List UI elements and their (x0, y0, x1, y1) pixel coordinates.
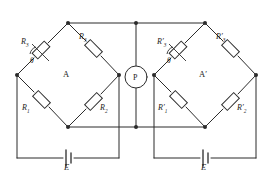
node-ap-apex (203, 21, 207, 25)
node-ap-left (152, 73, 156, 77)
node-a-right (117, 73, 121, 77)
wire-ap-botright-upper (238, 75, 256, 94)
label-angle-theta-ap: θ (167, 56, 171, 65)
label-resistor-ap-top-right: R′3 (216, 33, 225, 43)
resistor-a-top-right (85, 40, 103, 58)
node-ap-right (254, 73, 258, 77)
wire-a-botleft-upper (17, 75, 34, 92)
circuit-svg (0, 0, 270, 180)
label-emf-right: E (201, 163, 206, 172)
label-resistor-a-top-left: R3 (21, 38, 28, 48)
label-resistor-ap-bottom-left: R′1 (158, 104, 167, 114)
wire-a-topleft-upper (48, 23, 68, 43)
resistor-a-bottom-left (33, 91, 51, 109)
label-bridge-ap: A′ (199, 70, 207, 79)
label-emf-left: E (64, 163, 69, 172)
resistor-ap-bottom-left (170, 91, 188, 109)
node-a-bottom (66, 125, 70, 129)
node-a-apex (66, 21, 70, 25)
wire-ap-botleft-lower (186, 107, 205, 127)
wire-ap-botright-lower (205, 109, 223, 127)
wire-a-topright-lower (101, 56, 119, 75)
label-resistor-a-bottom-right: R2 (100, 104, 107, 114)
wire-ap-topleft-upper (185, 23, 205, 43)
resistor-a-top-left (32, 41, 50, 59)
node-meter-top (134, 21, 138, 25)
wire-group (17, 23, 256, 166)
node-meter-bottom (134, 125, 138, 129)
wire-a-botleft-lower (49, 107, 68, 127)
label-bridge-a: A (63, 70, 69, 79)
wire-a-botright-upper (101, 75, 119, 94)
node-ap-bottom (203, 125, 207, 129)
label-resistor-a-bottom-left: R1 (22, 104, 29, 114)
circuit-diagram: R3 R3 R1 R2 θ A E R′3 R′3 R′1 R′2 θ A′ E… (0, 0, 270, 180)
label-resistor-ap-bottom-right: R′2 (237, 104, 246, 114)
node-a-left (15, 73, 19, 77)
wire-ap-topright-lower (238, 56, 256, 75)
label-galvanometer: P (133, 73, 137, 82)
label-angle-theta-a: θ (30, 56, 34, 65)
wire-a-botright-lower (68, 109, 86, 127)
label-resistor-ap-top-left: R′3 (157, 38, 166, 48)
label-resistor-a-top-right: R3 (79, 33, 86, 43)
resistor-ap-top-left (169, 41, 187, 59)
wire-ap-botleft-upper (154, 75, 171, 92)
